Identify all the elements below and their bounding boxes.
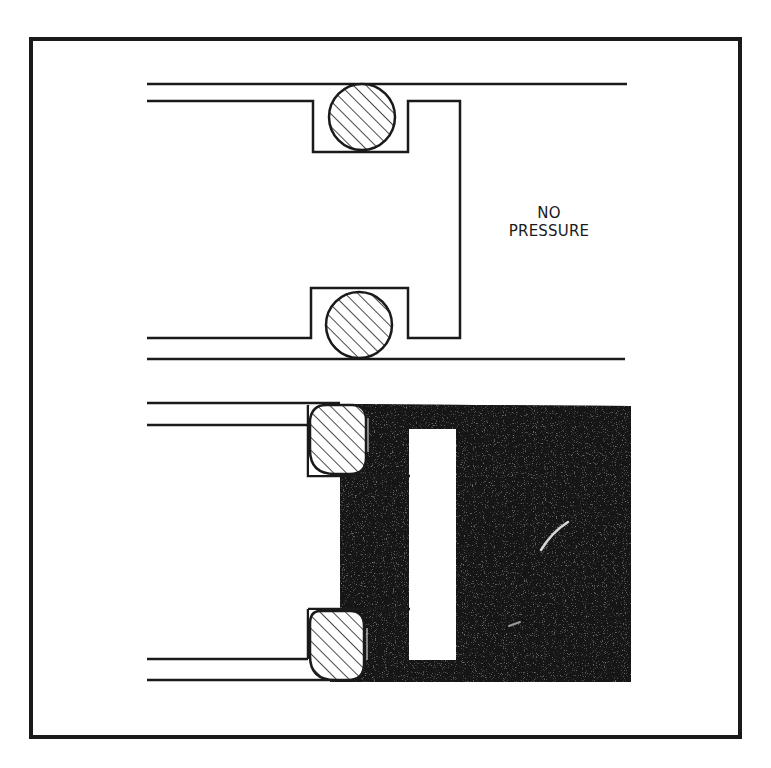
piston-slot <box>409 429 455 660</box>
no-pressure-label-line1: NO <box>494 204 604 222</box>
o-ring-bottom-upper-icon <box>310 405 366 474</box>
o-ring-top-lower-icon <box>326 292 392 358</box>
no-pressure-label-line2: PRESSURE <box>494 222 604 240</box>
no-pressure-label: NO PRESSURE <box>494 204 604 240</box>
o-ring-top-upper-icon <box>329 84 395 150</box>
piston-outline <box>147 101 460 338</box>
o-ring-seal-diagram <box>0 0 771 768</box>
o-ring-bottom-lower-icon <box>310 611 364 680</box>
bottom-diagram-pressurized <box>147 403 631 682</box>
